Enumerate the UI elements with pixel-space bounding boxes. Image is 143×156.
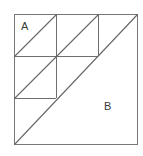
region-label-b: B — [104, 101, 111, 112]
geometry-figure: A B — [0, 0, 143, 156]
region-label-a: A — [21, 21, 28, 32]
